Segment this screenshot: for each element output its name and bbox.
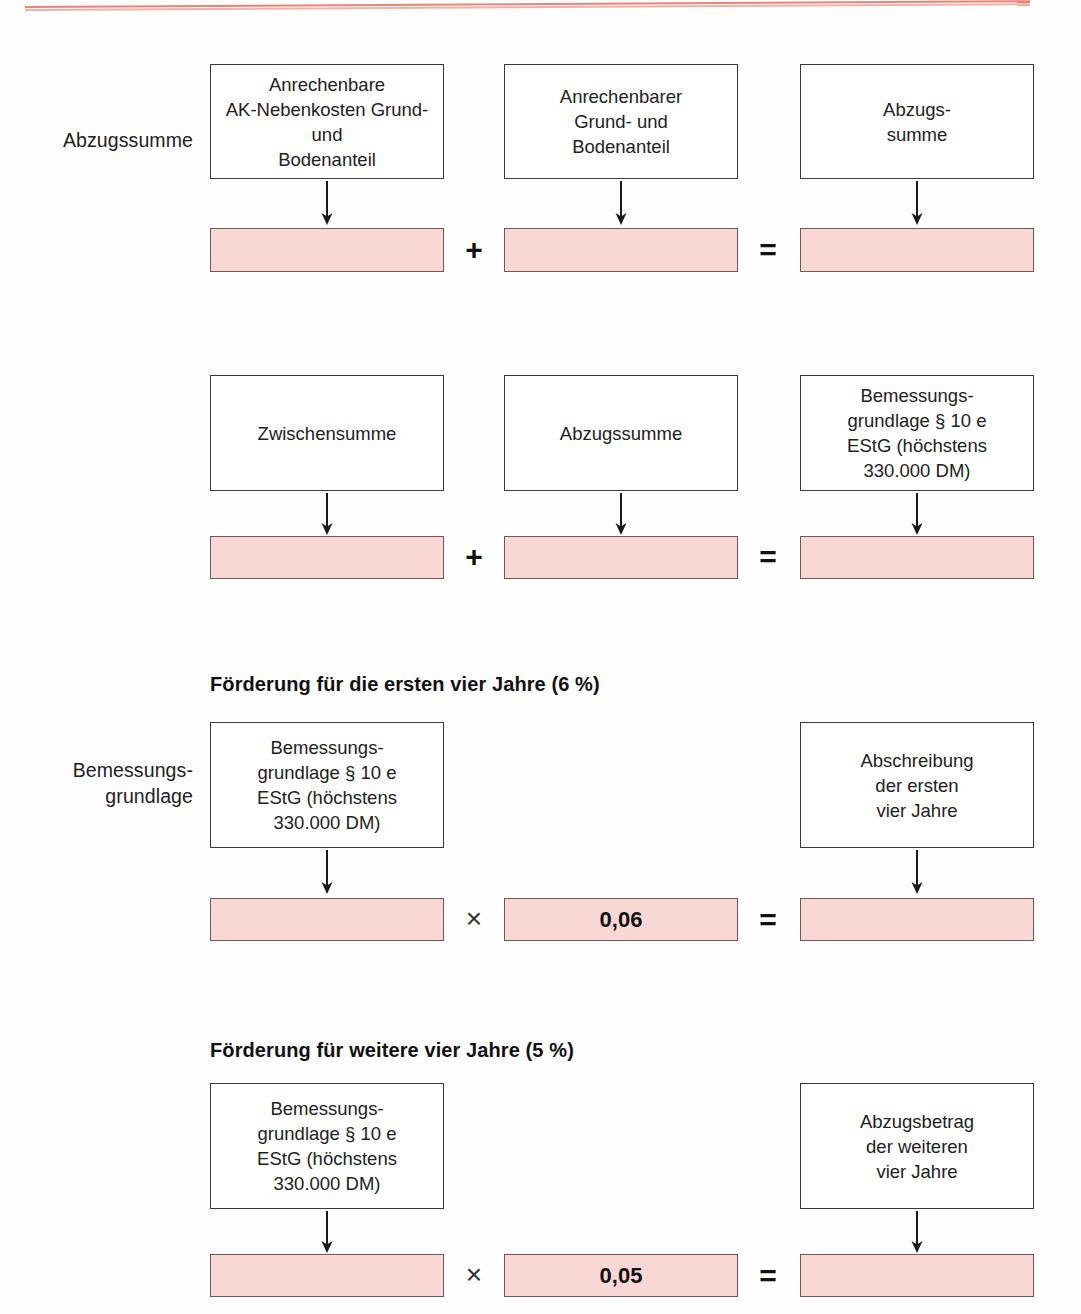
- value-bar-s2-c2[interactable]: [504, 536, 738, 579]
- concept-box-bemessungsgrundlage-10e: Bemessungs- grundlage § 10 e EStG (höchs…: [800, 375, 1034, 491]
- arrow-down-s4-c3: [909, 1211, 925, 1257]
- operator-equals-s2: =: [750, 542, 786, 572]
- section-heading-foerderung-erste-vier-jahre: Förderung für die ersten vier Jahre (6 %…: [210, 673, 600, 696]
- arrow-down-s1-c3: [909, 181, 925, 227]
- value-bar-s1-c1[interactable]: [210, 228, 444, 272]
- operator-plus-s1: +: [456, 235, 492, 265]
- diagram-page: Abzugssumme Anrechenbare AK-Nebenkosten …: [0, 0, 1081, 1314]
- top-rule-divider: [25, 0, 1030, 18]
- operator-times-s3: ×: [456, 905, 492, 933]
- concept-box-anrechenbarer-grund-bodenanteil: Anrechenbarer Grund- und Bodenanteil: [504, 64, 738, 179]
- arrow-down-s4-c1: [319, 1211, 335, 1257]
- operator-equals-s4: =: [750, 1261, 786, 1291]
- concept-box-bemessungsgrundlage-10e-5pct: Bemessungs- grundlage § 10 e EStG (höchs…: [210, 1083, 444, 1209]
- concept-box-abzugssumme-result: Abzugs- summe: [800, 64, 1034, 179]
- operator-equals-s1: =: [750, 235, 786, 265]
- section-label-bemessungsgrundlage: Bemessungs- grundlage: [18, 757, 193, 809]
- arrow-down-s2-c1: [319, 493, 335, 539]
- section-heading-foerderung-weitere-vier-jahre: Förderung für weitere vier Jahre (5 %): [210, 1039, 574, 1062]
- arrow-down-s1-c2: [613, 181, 629, 227]
- concept-box-abzugsbetrag-weitere-vier-jahre: Abzugsbetrag der weiteren vier Jahre: [800, 1083, 1034, 1209]
- concept-box-abschreibung-erste-vier-jahre: Abschreibung der ersten vier Jahre: [800, 722, 1034, 848]
- value-bar-s4-c3[interactable]: [800, 1254, 1034, 1297]
- arrow-down-s1-c1: [319, 181, 335, 227]
- section-label-abzugssumme: Abzugssumme: [18, 127, 193, 153]
- concept-box-anrechenbare-ak-nebenkosten: Anrechenbare AK-Nebenkosten Grund- und B…: [210, 64, 444, 179]
- value-bar-s1-c2[interactable]: [504, 228, 738, 272]
- value-bar-s2-c3[interactable]: [800, 536, 1034, 579]
- arrow-down-s2-c3: [909, 493, 925, 539]
- operator-times-s4: ×: [456, 1261, 492, 1289]
- value-bar-s2-c1[interactable]: [210, 536, 444, 579]
- value-bar-s3-c1[interactable]: [210, 898, 444, 941]
- value-bar-s4-c1[interactable]: [210, 1254, 444, 1297]
- concept-box-zwischensumme: Zwischensumme: [210, 375, 444, 491]
- concept-box-abzugssumme-operand: Abzugssumme: [504, 375, 738, 491]
- value-bar-s4-factor[interactable]: 0,05: [504, 1254, 738, 1297]
- arrow-down-s2-c2: [613, 493, 629, 539]
- operator-equals-s3: =: [750, 905, 786, 935]
- arrow-down-s3-c3: [909, 850, 925, 896]
- arrow-down-s3-c1: [319, 850, 335, 896]
- value-bar-s3-c3[interactable]: [800, 898, 1034, 941]
- concept-box-bemessungsgrundlage-10e-6pct: Bemessungs- grundlage § 10 e EStG (höchs…: [210, 722, 444, 848]
- value-bar-s1-c3[interactable]: [800, 228, 1034, 272]
- value-bar-s3-factor[interactable]: 0,06: [504, 898, 738, 941]
- operator-plus-s2: +: [456, 542, 492, 572]
